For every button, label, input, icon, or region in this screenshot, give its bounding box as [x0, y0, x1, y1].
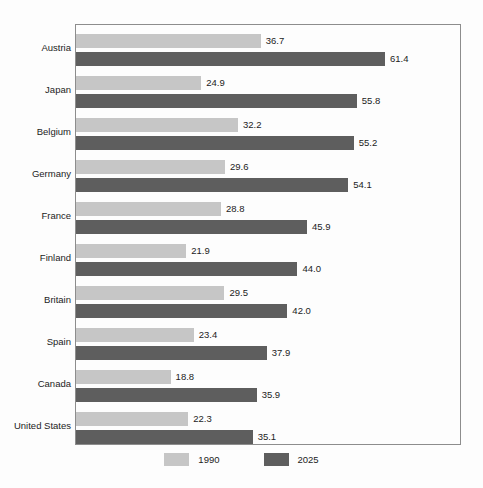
bar-value-label: 35.9: [262, 388, 281, 402]
bar-value-label: 29.6: [230, 160, 249, 174]
bar-2025-belgium: [76, 136, 354, 150]
bar-value-label: 54.1: [353, 178, 372, 192]
category-label-germany: Germany: [0, 168, 71, 180]
bar-1990-spain: [76, 328, 194, 342]
bar-value-label: 55.2: [359, 136, 378, 150]
bar-1990-united-states: [76, 412, 188, 426]
bar-group: 21.944.0: [76, 235, 460, 277]
category-label-france: France: [0, 210, 71, 222]
bar-2025-britain: [76, 304, 287, 318]
bar-value-label: 32.2: [243, 118, 262, 132]
bar-1990-finland: [76, 244, 186, 258]
bar-1990-belgium: [76, 118, 238, 132]
bar-1990-germany: [76, 160, 225, 174]
category-label-united-states: United States: [0, 420, 71, 432]
bar-2025-austria: [76, 52, 385, 66]
bar-2025-canada: [76, 388, 257, 402]
bar-group: 22.335.1: [76, 403, 460, 445]
bar-value-label: 21.9: [191, 244, 210, 258]
category-label-japan: Japan: [0, 84, 71, 96]
category-label-spain: Spain: [0, 336, 71, 348]
bar-2025-spain: [76, 346, 267, 360]
legend-swatch-icon: [164, 453, 189, 466]
legend-label: 1990: [198, 453, 219, 466]
bar-value-label: 35.1: [258, 430, 277, 444]
category-label-britain: Britain: [0, 294, 71, 306]
plot-area: 36.761.424.955.832.255.229.654.128.845.9…: [76, 25, 460, 444]
bar-value-label: 18.8: [176, 370, 195, 384]
chart-legend: 19902025: [0, 453, 483, 466]
bar-value-label: 29.5: [229, 286, 248, 300]
bar-2025-france: [76, 220, 307, 234]
legend-swatch-icon: [264, 453, 289, 466]
bar-value-label: 45.9: [312, 220, 331, 234]
bar-group: 36.761.4: [76, 25, 460, 67]
bar-value-label: 28.8: [226, 202, 245, 216]
category-label-canada: Canada: [0, 378, 71, 390]
bar-value-label: 61.4: [390, 52, 409, 66]
bar-1990-france: [76, 202, 221, 216]
category-label-belgium: Belgium: [0, 126, 71, 138]
bar-chart: 36.761.424.955.832.255.229.654.128.845.9…: [0, 0, 483, 488]
bar-group: 29.542.0: [76, 277, 460, 319]
bar-value-label: 22.3: [193, 412, 212, 426]
bar-group: 29.654.1: [76, 151, 460, 193]
bar-value-label: 23.4: [199, 328, 218, 342]
bar-1990-canada: [76, 370, 171, 384]
bar-1990-japan: [76, 76, 201, 90]
bar-value-label: 36.7: [266, 34, 285, 48]
bar-1990-britain: [76, 286, 224, 300]
bar-group: 28.845.9: [76, 193, 460, 235]
bar-group: 18.835.9: [76, 361, 460, 403]
bar-group: 23.437.9: [76, 319, 460, 361]
category-label-finland: Finland: [0, 252, 71, 264]
bar-group: 24.955.8: [76, 67, 460, 109]
bar-1990-austria: [76, 34, 261, 48]
bar-2025-finland: [76, 262, 297, 276]
bar-2025-japan: [76, 94, 357, 108]
bar-value-label: 42.0: [292, 304, 311, 318]
legend-item-1990: 1990: [164, 453, 219, 466]
legend-label: 2025: [298, 453, 319, 466]
bar-value-label: 24.9: [206, 76, 225, 90]
bar-2025-germany: [76, 178, 348, 192]
category-label-austria: Austria: [0, 42, 71, 54]
bar-value-label: 37.9: [272, 346, 291, 360]
legend-item-2025: 2025: [264, 453, 319, 466]
bar-2025-united-states: [76, 430, 253, 444]
bar-value-label: 44.0: [302, 262, 321, 276]
bar-value-label: 55.8: [362, 94, 381, 108]
bar-group: 32.255.2: [76, 109, 460, 151]
plot-frame: 36.761.424.955.832.255.229.654.128.845.9…: [75, 24, 461, 445]
